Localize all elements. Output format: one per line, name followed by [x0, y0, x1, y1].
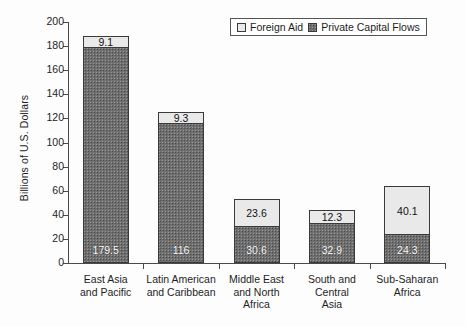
- x-axis-line: [68, 263, 446, 264]
- stacked-bar-chart: Billions of U.S. Dollars 020406080100120…: [0, 0, 465, 326]
- x-axis-category-label-line: Asia: [294, 298, 369, 311]
- plot-area: 020406080100120140160180200 9.1179.59.31…: [68, 22, 445, 263]
- bar-segment-private-capital-flows: 24.3: [384, 234, 430, 263]
- y-tick-label: 60: [52, 184, 64, 196]
- bar-segment-foreign-aid: 40.1: [384, 186, 430, 234]
- y-tick-label: 180: [46, 39, 64, 51]
- legend-item-foreign-aid: Foreign Aid: [237, 21, 303, 33]
- bar-segment-foreign-aid: 23.6: [234, 199, 280, 227]
- x-axis-category-label-line: South and: [294, 273, 369, 286]
- bar-segment-foreign-aid: 12.3: [309, 210, 355, 225]
- x-axis-separator: [143, 263, 144, 269]
- y-tick-label: 140: [46, 87, 64, 99]
- x-axis-category-label-line: Africa: [370, 286, 445, 299]
- x-axis-category-label: East Asiaand Pacific: [68, 273, 143, 298]
- y-tick-label: 100: [46, 136, 64, 148]
- bar-stack: 12.332.9: [309, 210, 355, 263]
- bar-value-label-foreign-aid: 9.1: [84, 36, 128, 47]
- x-axis-separator: [445, 263, 446, 269]
- x-axis-category-label-line: East Asia: [68, 273, 143, 286]
- bar-segment-private-capital-flows: 179.5: [83, 47, 129, 263]
- x-axis-category-label-line: Africa: [219, 298, 294, 311]
- x-axis-category-label-line: and Caribbean: [143, 286, 218, 299]
- y-tick-label: 120: [46, 111, 64, 123]
- bar-value-label-private-capital-flows: 179.5: [84, 245, 128, 256]
- bar-value-label-foreign-aid: 23.6: [235, 208, 279, 219]
- x-axis-category-label: Latin Americanand Caribbean: [143, 273, 218, 298]
- x-axis-category-label-line: Sub-Saharan: [370, 273, 445, 286]
- y-tick-label: 0: [58, 256, 64, 268]
- x-axis-category-label: Sub-SaharanAfrica: [370, 273, 445, 298]
- x-axis-category-label-line: and North: [219, 286, 294, 299]
- x-axis-category-label-line: Latin American: [143, 273, 218, 286]
- x-axis-category-label-line: and Pacific: [68, 286, 143, 299]
- legend-label-private-capital-flows: Private Capital Flows: [321, 21, 420, 33]
- legend-swatch-private-capital-flows: [308, 23, 317, 32]
- y-tick-label: 200: [46, 15, 64, 27]
- x-axis-category-label: Middle Eastand NorthAfrica: [219, 273, 294, 311]
- bar-stack: 40.124.3: [384, 186, 430, 263]
- y-tick-label: 160: [46, 63, 64, 75]
- y-tick-label: 20: [52, 232, 64, 244]
- bar-segment-private-capital-flows: 32.9: [309, 223, 355, 263]
- x-axis-separator: [370, 263, 371, 269]
- y-axis-title: Billions of U.S. Dollars: [18, 38, 30, 258]
- bar-stack: 9.3116: [158, 112, 204, 263]
- bar-value-label-foreign-aid: 9.3: [159, 113, 203, 124]
- bar-value-label-private-capital-flows: 116: [159, 245, 203, 256]
- x-axis-category-label-line: Middle East: [219, 273, 294, 286]
- chart-legend: Foreign Aid Private Capital Flows: [230, 18, 427, 36]
- bar-value-label-foreign-aid: 12.3: [310, 212, 354, 223]
- bar-stack: 9.1179.5: [83, 36, 129, 263]
- bar-value-label-foreign-aid: 40.1: [385, 205, 429, 216]
- bar-stack: 23.630.6: [234, 199, 280, 263]
- bar-segment-private-capital-flows: 30.6: [234, 226, 280, 263]
- y-tick-label: 80: [52, 160, 64, 172]
- x-axis-category-label-line: Central: [294, 286, 369, 299]
- x-axis-separator: [219, 263, 220, 269]
- x-axis-separator: [294, 263, 295, 269]
- legend-label-foreign-aid: Foreign Aid: [250, 21, 303, 33]
- bar-value-label-private-capital-flows: 32.9: [310, 245, 354, 256]
- x-axis-category-label: South andCentralAsia: [294, 273, 369, 311]
- legend-item-private-capital-flows: Private Capital Flows: [308, 21, 420, 33]
- legend-swatch-foreign-aid: [237, 23, 246, 32]
- bar-value-label-private-capital-flows: 30.6: [235, 245, 279, 256]
- y-tick-label: 40: [52, 208, 64, 220]
- bar-value-label-private-capital-flows: 24.3: [385, 245, 429, 256]
- bar-segment-private-capital-flows: 116: [158, 123, 204, 263]
